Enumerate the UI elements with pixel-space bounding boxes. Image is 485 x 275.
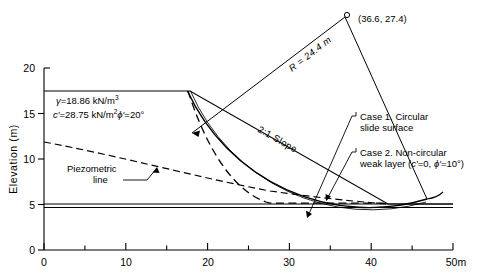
x-tick-label-40: 40 — [365, 256, 377, 268]
slope-stability-cross-section: 20 15 10 5 0 Elevation (m) 0 10 20 30 40… — [0, 0, 485, 275]
y-tick-label-10: 10 — [23, 153, 35, 165]
phi-value: =20° — [124, 109, 144, 120]
case2-cohesion-value: =0, — [418, 158, 434, 169]
slope-ratio-label: 2:1 Slope — [256, 123, 299, 154]
x-tick-label-10: 10 — [120, 256, 132, 268]
radius-line-to-toe — [345, 17, 427, 199]
case1-circular-surface-toe — [427, 192, 443, 199]
x-tick-label-50: 50m — [446, 256, 467, 268]
piezometric-leader-line — [123, 168, 157, 180]
soil-unit-weight-annotation: γ=18.86 kN/m3 — [56, 94, 119, 106]
case2-label-line2: weak layer (c′=0, ϕ′=10°) — [359, 158, 464, 169]
case2-weak-layer-text: weak layer ( — [359, 158, 412, 169]
y-axis-title: Elevation (m) — [7, 124, 19, 194]
case1-leader-arrowhead — [306, 211, 312, 219]
case2-phi-value: =10°) — [441, 158, 464, 169]
soil-strength-annotation: c′=28.75 kN/m2ϕ′=20° — [53, 108, 144, 120]
x-tick-label-20: 20 — [202, 256, 214, 268]
radius-line-to-slide-surface — [192, 17, 345, 133]
y-tick-label-5: 5 — [29, 199, 35, 211]
piezometric-label-line1: Piezometric — [67, 163, 117, 174]
y-tick-label-15: 15 — [23, 108, 35, 120]
case2-leader-line — [352, 148, 356, 152]
case1-leader-line — [352, 112, 356, 116]
y-tick-label-0: 0 — [29, 244, 35, 256]
radius-label: R = 24.4 m — [286, 34, 333, 74]
piezometric-label-line2: line — [93, 174, 108, 185]
case1-leader-stem — [308, 116, 352, 216]
case1-label-line1: Case 1. Circular — [360, 111, 428, 122]
circle-center-point-marker — [344, 12, 349, 17]
center-point-coordinates-label: (36.6, 27.4) — [358, 13, 407, 24]
case1-label-line2: slide surface — [360, 122, 413, 133]
x-tick-label-30: 30 — [283, 256, 295, 268]
cohesion-value: =28.75 kN/m — [60, 109, 114, 120]
figure-container: 20 15 10 5 0 Elevation (m) 0 10 20 30 40… — [0, 0, 485, 275]
case2-leader-arrowhead — [326, 194, 332, 201]
piezometric-leader-arrowhead — [153, 167, 160, 173]
x-tick-marks — [44, 243, 453, 250]
case2-label-line1: Case 2. Non-circular — [360, 147, 447, 158]
x-tick-label-0: 0 — [41, 256, 47, 268]
y-tick-label-20: 20 — [23, 62, 35, 74]
case2-leader-stem — [327, 152, 352, 199]
gamma-value: =18.86 kN/m — [61, 95, 115, 106]
gamma-exponent: 3 — [115, 94, 119, 101]
